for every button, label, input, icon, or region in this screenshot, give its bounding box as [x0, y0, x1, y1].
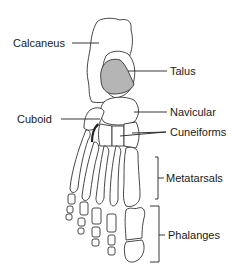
label-navicular: Navicular	[170, 106, 216, 118]
phalanx-4-distal	[78, 228, 84, 234]
phalanx-5-proximal	[68, 194, 75, 204]
phalanx-2-proximal	[107, 214, 116, 232]
metatarsal-1	[124, 147, 141, 206]
metatarsal-3	[96, 146, 109, 204]
phalanges-bracket	[150, 206, 159, 262]
phalanx-5-distal	[66, 214, 72, 220]
phalanx-3-proximal	[92, 208, 101, 224]
phalanx-1-proximal	[125, 208, 145, 240]
phalanx-2-middle	[108, 235, 115, 245]
label-phalanges: Phalanges	[168, 229, 220, 241]
phalanx-4-proximal	[80, 202, 88, 215]
navicular-bone	[100, 97, 138, 125]
metatarsal-2	[110, 146, 121, 206]
foot-bones-diagram: Calcaneus Talus Cuboid Navicular Cuneifo…	[0, 0, 248, 280]
label-talus: Talus	[170, 65, 196, 77]
phalanx-1-distal	[124, 240, 144, 262]
phalanx-5-middle	[67, 206, 73, 213]
label-calcaneus: Calcaneus	[13, 37, 65, 49]
phalanx-4-middle	[78, 218, 85, 226]
label-cuneiforms: Cuneiforms	[170, 126, 226, 138]
metatarsals-bracket	[155, 157, 158, 199]
lateral-cuneiform-bone	[99, 124, 113, 146]
phalanx-3-middle	[92, 227, 100, 237]
phalanx-2-distal	[108, 247, 115, 255]
label-metatarsals: Metatarsals	[166, 172, 223, 184]
label-cuboid: Cuboid	[17, 113, 52, 125]
phalanx-3-distal	[92, 239, 99, 246]
